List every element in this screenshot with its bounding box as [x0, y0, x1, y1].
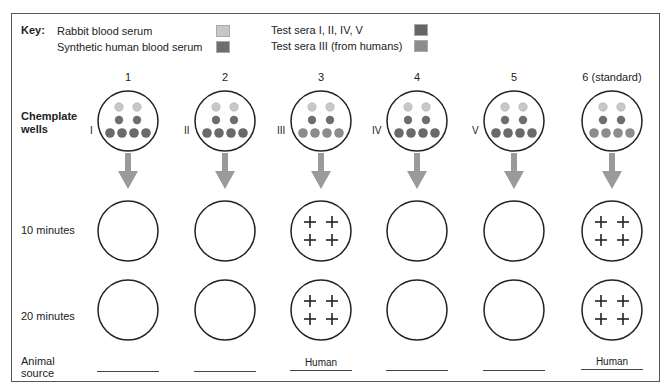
well-10min-1 [98, 201, 158, 261]
column-1 [98, 91, 158, 340]
source-text-6: Human [581, 356, 643, 367]
column-3 [291, 91, 351, 340]
column-6 [582, 91, 642, 340]
well-20min-1 [98, 280, 158, 340]
source-line-1 [97, 371, 159, 372]
source-line-2 [194, 371, 256, 372]
arrow-down-icon [118, 153, 138, 189]
source-line-4 [386, 370, 448, 371]
source-text-3: Human [290, 357, 352, 368]
column-4 [387, 91, 447, 340]
source-line-6 [581, 369, 643, 370]
source-line-5 [483, 370, 545, 371]
column-5 [484, 91, 544, 340]
chemplate-well-1 [98, 91, 158, 151]
source-line-3 [290, 370, 352, 371]
diagram-graphics [0, 0, 667, 389]
column-2 [195, 91, 255, 340]
